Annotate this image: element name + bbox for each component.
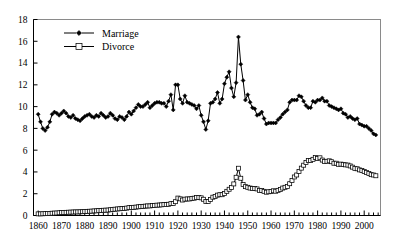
x-tick-label: 1950 bbox=[238, 221, 257, 231]
marriage-divorce-rate-line-chart: 024681012141618 186018701880189019001910… bbox=[0, 0, 395, 248]
y-tick-label: 2 bbox=[23, 189, 28, 199]
x-tick-label: 1990 bbox=[331, 221, 350, 231]
data-point-marker bbox=[234, 175, 238, 179]
y-tick-label: 4 bbox=[23, 167, 28, 177]
data-point-marker bbox=[239, 176, 243, 180]
y-tick-label: 10 bbox=[18, 102, 28, 112]
y-tick-label: 16 bbox=[18, 37, 28, 47]
y-tick-label: 18 bbox=[18, 15, 28, 25]
x-tick-label: 1940 bbox=[215, 221, 234, 231]
x-tick-label: 1930 bbox=[192, 221, 211, 231]
data-point-marker bbox=[76, 44, 82, 50]
y-tick-label: 6 bbox=[23, 146, 28, 156]
x-tick-label: 1970 bbox=[285, 221, 304, 231]
chart-figure: 024681012141618 186018701880189019001910… bbox=[0, 0, 395, 248]
x-tick-label: 1890 bbox=[99, 221, 118, 231]
x-tick-label: 1900 bbox=[122, 221, 141, 231]
legend-label: Marriage bbox=[102, 28, 139, 39]
x-tick-label: 1880 bbox=[75, 221, 94, 231]
x-axis-tick-labels: 1860187018801890190019101920193019401950… bbox=[29, 221, 374, 231]
x-tick-label: 1860 bbox=[29, 221, 48, 231]
x-tick-label: 2000 bbox=[355, 221, 374, 231]
x-tick-label: 1920 bbox=[168, 221, 187, 231]
x-tick-label: 1980 bbox=[308, 221, 327, 231]
x-tick-label: 1870 bbox=[52, 221, 71, 231]
x-tick-label: 1960 bbox=[262, 221, 281, 231]
x-tick-label: 1910 bbox=[145, 221, 164, 231]
y-tick-label: 0 bbox=[23, 211, 28, 221]
data-point-marker bbox=[374, 174, 378, 178]
y-tick-label: 12 bbox=[18, 80, 28, 90]
y-tick-label: 14 bbox=[18, 58, 28, 68]
legend-label: Divorce bbox=[102, 41, 135, 52]
data-point-marker bbox=[232, 182, 236, 186]
y-tick-label: 8 bbox=[23, 124, 28, 134]
data-point-marker bbox=[236, 166, 240, 170]
